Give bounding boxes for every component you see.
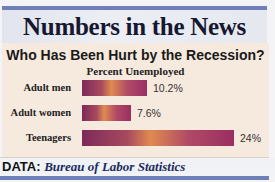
bar-row: Adult women 7.6% (2, 105, 269, 121)
bar-adult-women (82, 105, 131, 121)
value-label: 7.6% (137, 107, 161, 119)
category-label: Adult women (11, 107, 71, 118)
page-title: Numbers in the News (2, 13, 267, 41)
source-label: DATA: (2, 159, 41, 174)
source-footer: DATA: Bureau of Labor Statistics (0, 158, 275, 175)
bar-row: Adult men 10.2% (2, 80, 269, 96)
chart-axis-label: Percent Unemployed (2, 65, 269, 77)
chart-panel: Who Has Been Hurt by the Recession? Perc… (2, 43, 269, 157)
bottom-accent-rule (0, 176, 269, 180)
header-band: Numbers in the News (2, 10, 267, 43)
value-label: 24% (240, 132, 261, 144)
source-line: DATA: Bureau of Labor Statistics (2, 159, 185, 175)
chart-title: Who Has Been Hurt by the Recession? (2, 47, 269, 63)
value-label: 10.2% (153, 82, 183, 94)
bar-adult-men (82, 80, 147, 96)
source-text: Bureau of Labor Statistics (44, 159, 185, 174)
category-label: Teenagers (26, 132, 71, 143)
bar-teenagers (82, 130, 234, 146)
category-label: Adult men (23, 82, 71, 93)
bar-row: Teenagers 24% (2, 130, 269, 146)
